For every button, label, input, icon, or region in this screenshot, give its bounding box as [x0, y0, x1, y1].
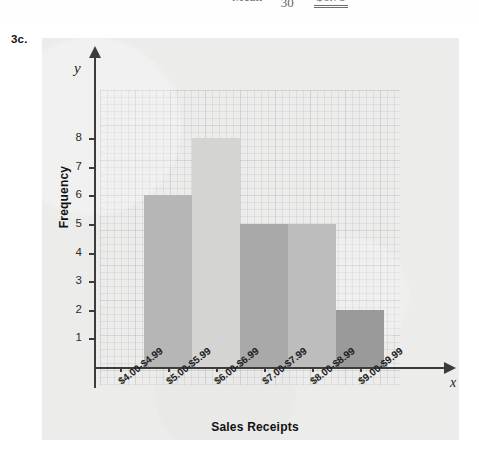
mean-equation: Mean = 30 = $6.75: [232, 0, 348, 9]
y-tick-mark: [89, 338, 95, 340]
bar-2: [144, 195, 192, 367]
histogram-chart: y x 12345678 $4.00-$4.99$5.00-$5.99$6.00…: [42, 38, 459, 440]
bars-container: [94, 56, 446, 367]
y-tick-label: 2: [64, 303, 82, 315]
y-tick-label: 4: [64, 246, 82, 258]
y-axis-variable-label: y: [74, 60, 81, 77]
x-axis-arrow-icon: [444, 362, 456, 374]
y-tick-mark: [89, 281, 95, 283]
y-tick-mark: [89, 310, 95, 312]
x-tick-mark: [360, 367, 362, 372]
problem-number: 3c.: [11, 33, 28, 45]
y-tick-mark: [89, 253, 95, 255]
bar-5: [288, 224, 336, 367]
y-tick-mark: [89, 195, 95, 197]
x-tick-mark: [264, 367, 266, 372]
x-tick-mark: [168, 367, 170, 372]
y-tick-label: 8: [64, 131, 82, 143]
y-tick-mark: [89, 224, 95, 226]
equation-strip: Mean = 30 = $6.75: [0, 0, 479, 20]
y-axis-arrow-icon: [89, 46, 101, 58]
y-tick-mark: [89, 138, 95, 140]
bar-4: [240, 224, 288, 367]
mean-fraction: 30: [281, 0, 294, 9]
y-tick-label: 3: [64, 274, 82, 286]
x-tick-mark: [216, 367, 218, 372]
x-tick-mark: [312, 367, 314, 372]
fraction-denominator: 30: [281, 0, 294, 9]
y-tick-mark: [89, 167, 95, 169]
x-tick-mark: [120, 367, 122, 372]
mean-result: $6.75: [314, 0, 347, 8]
equals-sign: =: [301, 0, 308, 4]
y-axis-title: Frequency: [57, 149, 71, 245]
bar-3: [192, 138, 240, 367]
y-tick-label: 1: [64, 331, 82, 343]
x-axis-title: Sales Receipts: [175, 420, 335, 434]
mean-label: Mean =: [232, 0, 273, 4]
x-axis-variable-label: x: [450, 375, 456, 391]
